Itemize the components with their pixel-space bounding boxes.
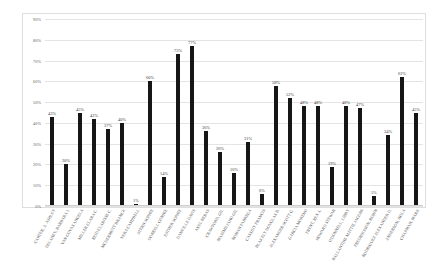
bar-value-label: 14%: [160, 171, 168, 176]
bar-slot[interactable]: 37%: [101, 19, 115, 206]
x-axis-label-slot: ALEXANDER SCOTT G.: [283, 207, 297, 277]
bar-slot[interactable]: 52%: [283, 19, 297, 206]
bar[interactable]: [78, 113, 83, 207]
bar-slot[interactable]: 19%: [325, 19, 339, 206]
bar-value-label: 20%: [62, 158, 70, 163]
bar-slot[interactable]: 20%: [59, 19, 73, 206]
bar-value-label: 40%: [118, 117, 126, 122]
bar-value-label: 43%: [48, 111, 56, 116]
bar-slot[interactable]: 47%: [353, 19, 367, 206]
bar-value-label: 1%: [133, 198, 139, 203]
bar-value-label: 16%: [230, 167, 238, 172]
bar-slot[interactable]: 14%: [157, 19, 171, 206]
y-axis-tick-label: 80%: [33, 37, 41, 42]
x-axis-label-slot: STERN SOPHIE: [143, 207, 157, 277]
bar-slot[interactable]: 45%: [409, 19, 423, 206]
bar-value-label: 77%: [188, 40, 196, 45]
bar-slot[interactable]: 48%: [339, 19, 353, 206]
bar[interactable]: [204, 131, 209, 206]
bar[interactable]: [232, 173, 237, 206]
y-axis-tick-label: 70%: [33, 58, 41, 63]
bar-slot[interactable]: 1%: [129, 19, 143, 206]
bar[interactable]: [400, 77, 405, 206]
bar-slot[interactable]: 6%: [255, 19, 269, 206]
bar[interactable]: [106, 129, 111, 206]
x-axis-label-slot: ESTHER SOPHIE: [171, 207, 185, 277]
bar-slot[interactable]: 48%: [297, 19, 311, 206]
y-axis-tick-label: 40%: [33, 120, 41, 125]
x-axis-label-slot: MILLER CLARA C.: [87, 207, 101, 277]
bar-value-label: 36%: [202, 125, 210, 130]
bar-value-label: 60%: [146, 75, 154, 80]
bar-value-label: 73%: [174, 48, 182, 53]
bar-slot[interactable]: 45%: [73, 19, 87, 206]
bar-value-label: 47%: [356, 102, 364, 107]
bar-value-label: 45%: [412, 107, 420, 112]
bar[interactable]: [162, 177, 167, 206]
bar-slot[interactable]: 73%: [171, 19, 185, 206]
bar[interactable]: [302, 106, 307, 206]
x-axis-label-slot: CHAPMAN, MARK: [409, 207, 423, 277]
y-axis-tick-label: 30%: [33, 141, 41, 146]
bar-chart-figure: 90%80%70%60%50%40%30%20%10%0% 43%20%45%4…: [0, 0, 441, 279]
bar[interactable]: [274, 86, 279, 207]
bar[interactable]: [50, 117, 55, 206]
bar-slot[interactable]: 62%: [395, 19, 409, 206]
axis-baseline: [45, 205, 423, 206]
bar[interactable]: [386, 135, 391, 206]
bar-slot[interactable]: 60%: [143, 19, 157, 206]
bar-value-label: 31%: [244, 136, 252, 141]
bar-slot[interactable]: 43%: [45, 19, 59, 206]
bar[interactable]: [176, 54, 181, 206]
x-axis-label-slot: MCDERMOTT BRANCK: [115, 207, 129, 277]
bar[interactable]: [344, 106, 349, 206]
x-axis-label-slot: ANDERSON, NOLA: [395, 207, 409, 277]
y-axis-tick-label: 10%: [33, 183, 41, 188]
y-axis-tick-label: 90%: [33, 17, 41, 22]
bar[interactable]: [120, 123, 125, 206]
x-axis-label-slot: VERA CAMPBELL: [129, 207, 143, 277]
x-axis-label-slot: TRENT, REX A.: [311, 207, 325, 277]
bar-slot[interactable]: 58%: [269, 19, 283, 206]
x-axis-label-slot: AXEL BERAS: [199, 207, 213, 277]
y-axis-tick-label: 0%: [35, 204, 41, 209]
x-axis-label-slot: GARCIA MORENO: [297, 207, 311, 277]
bar-slot[interactable]: 40%: [115, 19, 129, 206]
bar[interactable]: [316, 106, 321, 206]
bar[interactable]: [92, 119, 97, 206]
x-axis-label-slot: MAXIMILIANO GIL: [227, 207, 241, 277]
bar-slot[interactable]: 34%: [381, 19, 395, 206]
bar-value-label: 19%: [328, 161, 336, 166]
bar-value-label: 48%: [314, 100, 322, 105]
bar-slot[interactable]: 36%: [199, 19, 213, 206]
bar-value-label: 37%: [104, 123, 112, 128]
bar-value-label: 42%: [90, 113, 98, 118]
bar-value-label: 6%: [259, 188, 265, 193]
bar[interactable]: [358, 108, 363, 206]
bar[interactable]: [64, 164, 69, 206]
bar[interactable]: [190, 46, 195, 206]
bar-slot[interactable]: 77%: [185, 19, 199, 206]
bar[interactable]: [148, 81, 153, 206]
bar[interactable]: [414, 113, 419, 207]
bar-value-label: 5%: [371, 190, 377, 195]
x-axis-labels-group: CARTER, A. ASHLEYDELANEY, BARBARA J.VAN …: [45, 207, 423, 277]
bar-slot[interactable]: 16%: [227, 19, 241, 206]
chart-plot-area: 90%80%70%60%50%40%30%20%10%0% 43%20%45%4…: [45, 19, 423, 206]
bar-value-label: 34%: [384, 129, 392, 134]
bar-slot[interactable]: 42%: [87, 19, 101, 206]
bar-slot[interactable]: 31%: [241, 19, 255, 206]
bar-value-label: 45%: [76, 107, 84, 112]
bar[interactable]: [218, 152, 223, 206]
bar-value-label: 48%: [342, 100, 350, 105]
bar-slot[interactable]: 26%: [213, 19, 227, 206]
bar[interactable]: [246, 142, 251, 206]
y-axis-tick-label: 50%: [33, 100, 41, 105]
bar[interactable]: [288, 98, 293, 206]
bar-value-label: 26%: [216, 146, 224, 151]
y-axis-tick-label: 60%: [33, 79, 41, 84]
bar[interactable]: [330, 167, 335, 206]
bar-slot[interactable]: 5%: [367, 19, 381, 206]
bar-slot[interactable]: 48%: [311, 19, 325, 206]
x-axis-label-slot: VAN COVAS ANGELA: [73, 207, 87, 277]
